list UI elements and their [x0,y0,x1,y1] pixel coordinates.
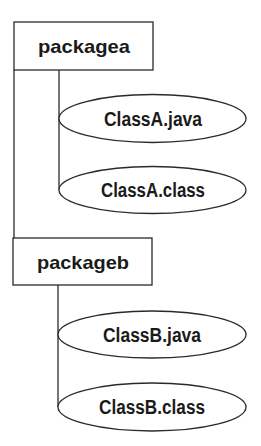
file-label: ClassB.class [99,396,205,418]
package-node-packageb: packageb [13,238,152,285]
package-label: packagea [38,36,130,57]
file-label: ClassB.java [103,324,202,346]
file-node-classa-java: ClassA.java [59,95,246,143]
package-tree-diagram: packagea ClassA.java ClassA.class packag… [0,0,261,446]
package-node-packagea: packagea [14,22,153,70]
file-node-classb-java: ClassB.java [58,311,246,358]
file-label: ClassA.class [101,179,205,201]
package-label: packageb [37,252,129,273]
file-node-classb-class: ClassB.class [58,383,246,431]
file-node-classa-class: ClassA.class [59,167,246,214]
file-label: ClassA.java [104,108,203,130]
